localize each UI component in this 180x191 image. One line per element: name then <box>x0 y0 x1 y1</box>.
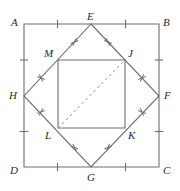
vertex-label-l: L <box>45 130 51 141</box>
outer-square-abcd <box>24 24 159 167</box>
diagonal-lj-dashed <box>58 60 125 128</box>
vertex-label-a: A <box>11 17 18 28</box>
vertex-label-f: F <box>164 90 171 101</box>
vertex-label-h: H <box>9 90 17 101</box>
vertex-label-d: D <box>10 165 18 176</box>
single-tick-marks <box>20 20 163 171</box>
diagonal-line-path <box>58 60 125 128</box>
rotated-square-efgh <box>24 24 159 167</box>
vertex-label-b: B <box>163 17 170 28</box>
vertex-label-m: M <box>44 48 53 59</box>
geometry-figure: ABCDEFGHMJKL <box>0 0 180 191</box>
vertex-label-g: G <box>87 172 95 183</box>
geometry-canvas <box>0 0 180 191</box>
vertex-label-c: C <box>163 165 170 176</box>
vertex-label-k: K <box>128 130 135 141</box>
vertex-label-e: E <box>87 11 94 22</box>
outer-square-path <box>24 24 159 167</box>
rotated-square-path <box>24 24 159 167</box>
vertex-label-j: J <box>128 48 133 59</box>
